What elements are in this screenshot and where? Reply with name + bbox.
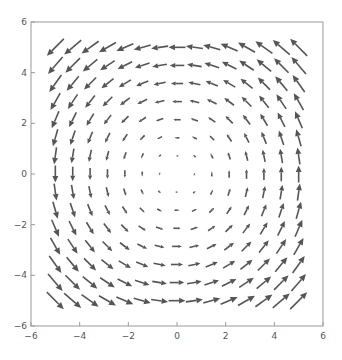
vector-arrow [141,190,143,195]
vector-arrow [171,262,183,266]
vector-arrow [136,81,148,86]
vector-arrow [173,227,180,229]
vector-arrow [119,261,131,268]
vector-arrow [203,297,220,303]
vector-arrow [69,221,76,236]
vector-arrow [158,191,160,193]
vector-arrow [209,208,214,213]
x-tick-label: 2 [223,331,229,341]
vector-arrow [295,220,302,237]
vector-arrow [140,208,145,213]
vector-arrow [273,40,290,55]
vector-arrow [137,244,147,249]
vector-arrow [240,260,252,270]
vector-arrow [295,129,301,146]
vector-arrow [275,257,287,272]
vector-arrow [239,61,254,71]
vector-arrow [221,44,238,51]
vector-arrow [224,98,234,105]
vector-arrow [228,152,231,159]
vector-arrow [188,262,200,266]
y-tick-label: 0 [21,169,27,179]
vector-arrow [228,170,230,177]
vector-arrow [118,62,133,69]
vector-arrow [173,118,180,120]
vector-field-plot: −6−4−20246 −6−4−20246 [0,0,342,360]
vector-arrow [294,93,304,110]
vector-arrow [192,137,197,139]
vector-arrow [86,114,93,126]
vector-arrow [273,293,290,308]
vector-arrow [206,262,218,267]
vector-arrow [52,129,58,146]
vector-arrow [274,58,289,73]
vector-arrow [121,116,128,123]
vector-arrow [70,203,75,218]
vector-arrow [116,44,133,51]
vector-arrow [170,63,185,68]
vector-arrow [71,185,76,200]
vector-arrow [278,131,283,146]
x-tick-label: −6 [24,331,38,341]
x-tick-label: −4 [73,331,87,341]
vector-arrow [296,184,302,201]
vector-arrow [226,116,233,123]
vector-arrow [88,186,92,198]
vector-arrow [260,114,267,126]
vector-arrow [203,44,220,50]
vector-arrow [243,115,250,125]
vector-arrow [120,98,130,105]
vector-arrow [141,172,143,177]
vector-arrow [124,188,127,195]
vector-arrow [156,119,163,122]
vector-arrow [122,207,127,214]
vector-arrow [279,167,284,182]
vector-arrow [295,111,302,128]
vector-arrow [99,42,116,52]
y-tick-label: −2 [14,220,27,230]
vector-arrow [106,169,109,179]
vector-arrow [52,111,59,128]
vector-arrow [245,151,248,161]
vector-arrow [255,295,272,307]
vector-arrow [134,298,151,304]
vector-arrow [274,275,289,290]
vector-arrow [262,168,266,180]
vector-arrow [85,96,95,108]
vector-arrow [67,257,79,272]
vector-arrow [211,172,213,177]
vector-arrow [243,223,250,233]
vector-arrow [157,209,162,211]
vector-arrow [262,186,266,198]
vector-arrow [100,61,115,71]
vector-arrow [85,240,95,252]
y-tick-label: 6 [21,17,27,27]
vector-arrow [135,63,150,68]
vector-arrow [192,209,197,211]
vector-arrow [52,166,58,183]
vector-arrow [155,100,165,103]
vector-arrow [224,243,234,250]
vector-arrow [257,59,272,71]
vector-arrow [136,262,148,267]
vector-arrow [64,293,81,308]
vector-arrow [245,187,248,197]
vector-arrow [151,298,168,304]
vector-arrow [49,75,61,92]
vector-arrow [278,112,285,127]
vector-arrow [193,191,195,193]
vector-arrow [211,153,213,158]
vector-arrow [290,39,307,56]
vector-arrow [175,137,180,139]
vector-arrow [105,205,110,215]
vector-arrow [70,131,75,146]
vector-arrow [294,238,304,255]
vector-arrow [191,118,198,121]
vector-arrow [120,243,130,250]
vector-arrow [123,152,126,159]
vector-arrow [65,58,80,73]
vector-arrow [296,202,302,219]
vector-arrow [52,147,58,164]
vector-arrow [238,296,255,306]
vector-arrow [152,63,167,68]
